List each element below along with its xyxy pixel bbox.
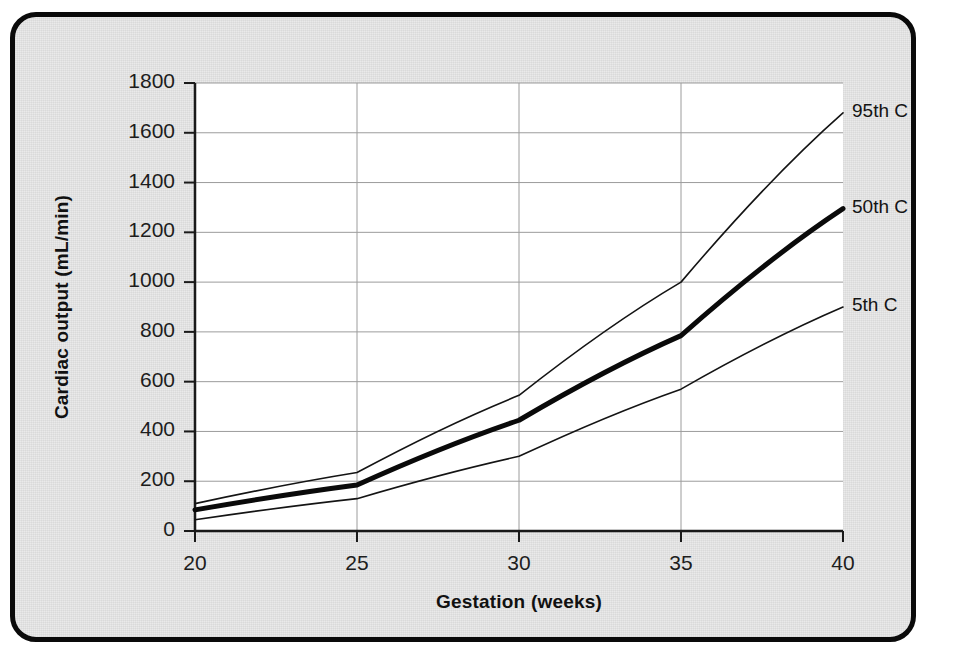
y-tick-label: 1200 [0,218,175,242]
series-label-95th-c: 95th C [852,100,908,122]
y-tick-label: 1600 [0,119,175,143]
x-axis-ticks [195,531,843,542]
cardiac-output-chart: 020040060080010001200140016001800 202530… [0,0,964,666]
series-label-50th-c: 50th C [852,196,908,218]
y-tick-label: 1000 [0,268,175,292]
y-tick-label: 0 [0,517,175,541]
y-tick-label: 1400 [0,169,175,193]
y-tick-label: 400 [0,417,175,441]
y-tick-label: 1800 [0,69,175,93]
series-label-5th-c: 5th C [852,294,897,316]
y-axis-ticks [184,83,195,531]
y-axis-title: Cardiac output (mL/min) [51,195,73,419]
x-tick-label: 35 [641,551,721,575]
y-tick-label: 800 [0,318,175,342]
y-tick-label: 200 [0,467,175,491]
x-tick-label: 30 [479,551,559,575]
x-tick-label: 20 [155,551,235,575]
x-axis-title: Gestation (weeks) [195,591,843,613]
y-tick-label: 600 [0,368,175,392]
x-tick-label: 40 [803,551,883,575]
x-tick-label: 25 [317,551,397,575]
